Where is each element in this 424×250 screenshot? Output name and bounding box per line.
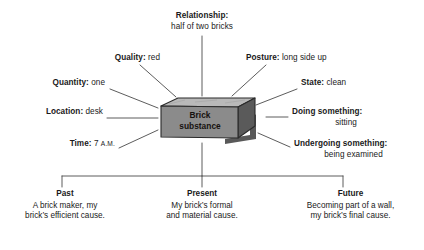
label-quality: Quality: red <box>30 53 160 64</box>
time-branch-present: Present My brick’s formal and material c… <box>137 189 267 222</box>
connector-time <box>119 130 158 148</box>
label-location-term: Location: <box>46 107 83 116</box>
label-doing-something-term: Doing something: <box>292 107 362 116</box>
time-branch-future-heading: Future <box>277 189 424 200</box>
label-state-value: clean <box>326 78 346 87</box>
label-doing-something: Doing something: sitting <box>292 107 420 128</box>
label-quantity-term: Quantity: <box>52 78 88 87</box>
label-relationship-value: half of two bricks <box>137 22 267 33</box>
label-undergoing-something-value: being examined <box>294 150 413 161</box>
brick-label-line2: substance <box>163 121 237 132</box>
label-posture-value: long side up <box>282 53 327 62</box>
time-branch-present-line2: and material cause. <box>137 211 267 222</box>
label-time-value: 7 <box>94 139 99 148</box>
label-state: State: clean <box>301 78 421 89</box>
aristotelian-categories-diagram: Brick substance Relationship: half of tw… <box>0 0 424 250</box>
connector-undergoing-something <box>258 133 290 147</box>
label-state-term: State: <box>301 78 324 87</box>
label-location-value: desk <box>86 107 104 116</box>
label-quality-term: Quality: <box>115 53 146 62</box>
label-relationship: Relationship: half of two bricks <box>137 11 267 32</box>
label-quantity: Quantity: one <box>5 78 105 89</box>
label-posture-term: Posture: <box>246 53 280 62</box>
brick-center-label: Brick substance <box>163 110 237 132</box>
label-undergoing-something: Undergoing something: being examined <box>294 139 424 160</box>
time-branch-future-line1: Becoming part of a wall, <box>277 201 424 212</box>
label-relationship-term: Relationship: <box>176 11 229 20</box>
connector-quantity <box>110 89 158 108</box>
time-branch-present-heading: Present <box>137 189 267 200</box>
label-quantity-value: one <box>91 78 105 87</box>
label-time: Time: 7 A.M. <box>15 139 115 150</box>
connector-state <box>256 89 297 105</box>
label-time-meridiem: A.M. <box>101 140 115 147</box>
connector-quality <box>140 65 176 97</box>
time-branch-past-heading: Past <box>0 189 130 200</box>
label-time-term: Time: <box>70 139 92 148</box>
connector-posture <box>232 65 266 96</box>
time-branch-past-line1: A brick maker, my <box>0 201 130 212</box>
label-undergoing-something-term: Undergoing something: <box>294 139 387 148</box>
time-branch-past-line2: brick’s efficient cause. <box>0 211 130 222</box>
time-branch-past: Past A brick maker, my brick’s efficient… <box>0 189 130 222</box>
label-quality-value: red <box>148 53 160 62</box>
label-doing-something-value: sitting <box>292 118 400 129</box>
label-posture: Posture: long side up <box>246 53 416 64</box>
time-branch-future-line2: my brick’s final cause. <box>277 211 424 222</box>
time-branch-present-line1: My brick’s formal <box>137 201 267 212</box>
time-branch-future: Future Becoming part of a wall, my brick… <box>277 189 424 222</box>
brick-label-line1: Brick <box>190 110 211 120</box>
label-location: Location: desk <box>3 107 103 118</box>
